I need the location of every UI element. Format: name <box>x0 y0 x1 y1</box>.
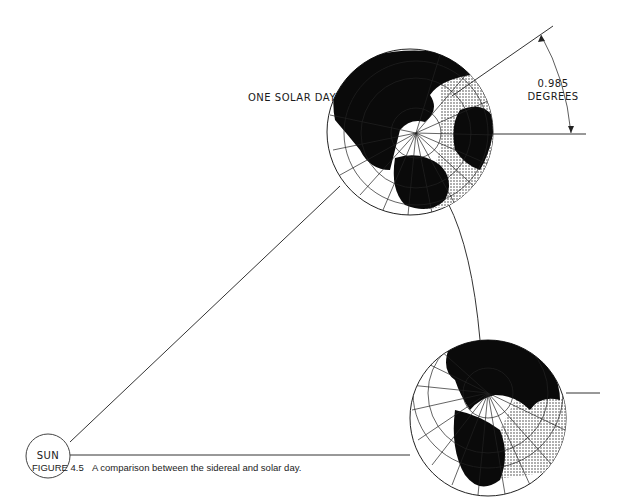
caption-figure-number: FIGURE 4.5 <box>32 462 84 473</box>
diagram-canvas <box>0 0 623 503</box>
figure-caption: FIGURE 4.5 A comparison between the side… <box>32 462 301 473</box>
earth-globe-start <box>410 318 570 496</box>
caption-text: A comparison between the sidereal and so… <box>92 462 301 473</box>
one-solar-day-label: ONE SOLAR DAY <box>248 92 336 103</box>
angle-unit-label: DEGREES <box>520 91 586 102</box>
angle-value-label: 0.985 <box>523 78 583 89</box>
sun-label: SUN <box>33 450 63 461</box>
earth-globe-solar-day <box>327 49 500 215</box>
orbit-arc <box>448 203 480 340</box>
sun-to-solar-day-earth-line <box>70 186 340 442</box>
angle-arrowhead-bottom <box>568 126 574 133</box>
